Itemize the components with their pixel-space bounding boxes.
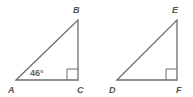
triangle-abc: B A C 46° [7,5,84,95]
vertex-label-e: E [172,5,179,15]
triangle-def-shape [117,20,177,80]
right-angle-mark-f [166,69,177,80]
vertex-label-a: A [7,85,15,95]
right-angle-mark-c [67,69,78,80]
vertex-label-b: B [73,5,80,15]
triangles-diagram: B A C 46° E D F [0,0,193,97]
angle-label-a: 46° [30,68,44,78]
triangle-def: E D F [109,5,182,95]
vertex-label-f: F [176,85,182,95]
vertex-label-d: D [109,85,116,95]
triangle-abc-shape [16,20,78,80]
vertex-label-c: C [77,85,84,95]
